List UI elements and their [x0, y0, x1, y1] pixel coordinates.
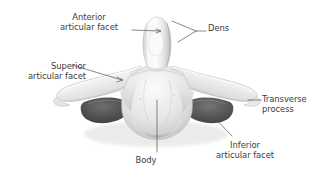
label-superior-articular-facet-line1: Superior: [51, 61, 86, 71]
label-transverse-process-line2: process: [262, 104, 294, 114]
label-dens-line1: Dens: [208, 23, 229, 33]
label-anterior-articular-facet: Anteriorarticular facet: [48, 12, 130, 33]
label-superior-articular-facet: Superiorarticular facet: [6, 61, 86, 82]
label-inferior-articular-facet-line2: articular facet: [216, 150, 274, 160]
anterior-articular-facet-surface: [149, 30, 164, 56]
label-transverse-process-line1: Transverse: [262, 94, 307, 104]
label-transverse-process: Transverseprocess: [262, 94, 312, 115]
label-anterior-articular-facet-line1: Anterior: [72, 12, 105, 22]
figure-canvas: Anteriorarticular facet Dens Superiorart…: [0, 0, 313, 180]
label-inferior-articular-facet: Inferiorarticular facet: [200, 140, 290, 161]
label-body-line1: Body: [136, 155, 157, 165]
label-dens: Dens: [208, 23, 252, 33]
label-body: Body: [124, 155, 168, 165]
label-inferior-articular-facet-line1: Inferior: [230, 140, 260, 150]
leader-dens-lower-prong: [178, 31, 196, 42]
leader-dens-upper-prong: [172, 21, 196, 31]
label-superior-articular-facet-line2: articular facet: [28, 71, 86, 81]
label-anterior-articular-facet-line2: articular facet: [60, 22, 118, 32]
